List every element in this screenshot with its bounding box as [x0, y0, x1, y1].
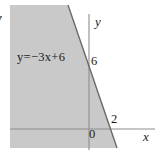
y-intercept-tick-label: 6 [91, 55, 97, 68]
clipped-edge-glyph-text: y [0, 10, 2, 27]
graph-figure: y=−3x+6 y x 6 2 0 y [0, 0, 159, 154]
plot-canvas [0, 0, 159, 154]
x-intercept-tick-label: 2 [111, 113, 117, 126]
y-axis-label: y [95, 15, 101, 28]
x-axis-label: x [143, 130, 149, 143]
equation-label: y=−3x+6 [17, 51, 65, 64]
clipped-edge-glyph: y [0, 10, 6, 28]
origin-label: 0 [89, 128, 95, 141]
